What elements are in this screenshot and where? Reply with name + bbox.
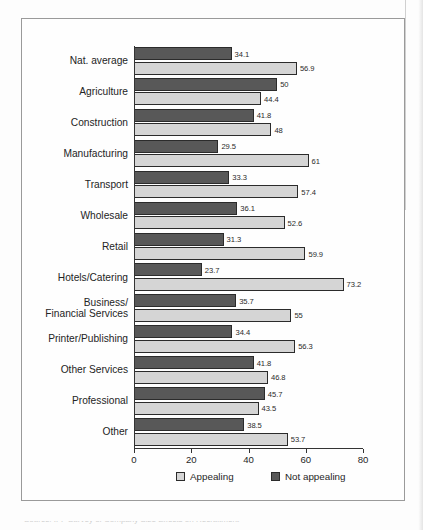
y-axis-line	[134, 46, 135, 448]
figure-frame: Nat. averageAgricultureConstructionManuf…	[21, 18, 405, 501]
bar-value-label: 33.3	[232, 173, 247, 182]
category-label: Agriculture	[0, 86, 128, 98]
category-label: Business/ Financial Services	[0, 297, 128, 320]
bar-value-label: 38.5	[247, 420, 262, 429]
legend-item-not_appealing: Not appealing	[271, 471, 345, 482]
bar-not-appealing	[134, 387, 265, 400]
bar-value-label: 41.8	[257, 111, 272, 120]
bar-value-label: 23.7	[205, 265, 220, 274]
bar-group: 41.848	[134, 108, 363, 139]
bar-value-label: 73.2	[347, 280, 362, 289]
bar-not-appealing	[134, 140, 218, 153]
bar-group: 36.152.6	[134, 201, 363, 232]
bar-value-label: 34.4	[235, 327, 250, 336]
bar-appealing	[134, 371, 268, 384]
category-label: Other Services	[0, 364, 128, 376]
legend-swatch-not_appealing	[271, 472, 280, 481]
bar-group: 29.561	[134, 139, 363, 170]
category-label: Nat. average	[0, 55, 128, 67]
x-tick	[249, 449, 250, 453]
x-tick-label: 60	[300, 454, 311, 465]
bar-appealing	[134, 123, 271, 136]
bar-value-label: 46.8	[271, 373, 286, 382]
category-label: Hotels/Catering	[0, 272, 128, 284]
category-label: Printer/Publishing	[0, 333, 128, 345]
bar-not-appealing	[134, 294, 236, 307]
bar-value-label: 56.9	[300, 64, 315, 73]
category-label: Construction	[0, 117, 128, 129]
bar-group: 38.553.7	[134, 417, 363, 448]
figure-caption-text: Source: IFF Survey of Company Size Effec…	[24, 521, 404, 524]
legend-item-appealing: Appealing	[176, 471, 234, 482]
bar-group: 31.359.9	[134, 232, 363, 263]
x-tick-label: 80	[358, 454, 369, 465]
category-label: Transport	[0, 179, 128, 191]
figure-caption-cutoff: Source: IFF Survey of Company Size Effec…	[24, 521, 404, 530]
bar-group: 35.755	[134, 293, 363, 324]
bar-not-appealing	[134, 171, 229, 184]
bar-value-label: 31.3	[227, 235, 242, 244]
category-label: Manufacturing	[0, 148, 128, 160]
bar-appealing	[134, 402, 259, 415]
bar-not-appealing	[134, 233, 224, 246]
bar-appealing	[134, 309, 291, 322]
legend-label: Appealing	[190, 471, 234, 482]
x-tick	[191, 449, 192, 453]
bar-appealing	[134, 340, 295, 353]
bar-not-appealing	[134, 356, 254, 369]
x-tick	[134, 449, 135, 453]
bar-not-appealing	[134, 47, 232, 60]
bar-not-appealing	[134, 78, 277, 91]
chart-legend: AppealingNot appealing	[134, 471, 363, 487]
scan-edge-line	[405, 0, 406, 210]
bar-not-appealing	[134, 325, 232, 338]
bar-appealing	[134, 92, 261, 105]
bar-value-label: 61	[312, 156, 320, 165]
x-tick	[363, 449, 364, 453]
plot-area: Nat. averageAgricultureConstructionManuf…	[134, 46, 363, 448]
legend-label: Not appealing	[285, 471, 345, 482]
bar-value-label: 41.8	[257, 358, 272, 367]
bar-group: 33.357.4	[134, 170, 363, 201]
bar-value-label: 35.7	[239, 296, 254, 305]
bar-group: 41.846.8	[134, 355, 363, 386]
legend-swatch-appealing	[176, 472, 185, 481]
x-tick-label: 20	[186, 454, 197, 465]
bar-value-label: 45.7	[268, 389, 283, 398]
category-label: Other	[0, 426, 128, 438]
bar-value-label: 34.1	[235, 49, 250, 58]
bar-group: 34.156.9	[134, 46, 363, 77]
category-label: Wholesale	[0, 210, 128, 222]
bar-group: 34.456.3	[134, 324, 363, 355]
bar-appealing	[134, 247, 305, 260]
bar-appealing	[134, 216, 285, 229]
bar-appealing	[134, 154, 309, 167]
category-label: Retail	[0, 241, 128, 253]
bar-value-label: 56.3	[298, 342, 313, 351]
bar-value-label: 48	[274, 125, 282, 134]
x-tick	[306, 449, 307, 453]
bar-value-label: 59.9	[308, 249, 323, 258]
bar-value-label: 55	[294, 311, 302, 320]
bar-group: 23.773.2	[134, 262, 363, 293]
bar-not-appealing	[134, 418, 244, 431]
bar-appealing	[134, 433, 288, 446]
category-label: Professional	[0, 395, 128, 407]
bar-value-label: 43.5	[262, 404, 277, 413]
x-tick-label: 40	[243, 454, 254, 465]
bar-appealing	[134, 62, 297, 75]
bar-not-appealing	[134, 263, 202, 276]
bar-group: 5044.4	[134, 77, 363, 108]
bar-value-label: 57.4	[301, 187, 316, 196]
bar-appealing	[134, 278, 344, 291]
category-axis-labels: Nat. averageAgricultureConstructionManuf…	[0, 46, 128, 448]
bar-value-label: 36.1	[240, 204, 255, 213]
scan-edge-artifact	[418, 0, 423, 530]
bar-not-appealing	[134, 202, 237, 215]
bar-value-label: 44.4	[264, 94, 279, 103]
bar-value-label: 52.6	[288, 218, 303, 227]
bar-not-appealing	[134, 109, 254, 122]
x-tick-label: 0	[131, 454, 136, 465]
bar-appealing	[134, 185, 298, 198]
bar-value-label: 53.7	[291, 435, 306, 444]
